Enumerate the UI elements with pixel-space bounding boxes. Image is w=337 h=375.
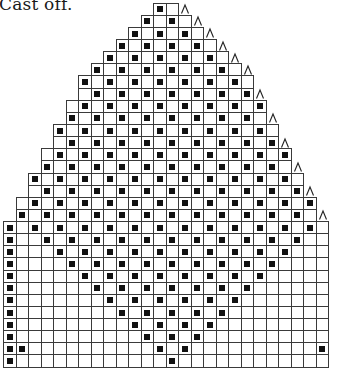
filled-square-icon xyxy=(82,200,88,206)
chart-cell xyxy=(128,354,142,367)
filled-square-icon xyxy=(219,188,225,194)
filled-square-icon xyxy=(269,261,275,267)
filled-square-icon xyxy=(119,91,125,97)
filled-square-icon xyxy=(232,103,238,109)
filled-square-icon xyxy=(7,358,13,364)
filled-square-icon xyxy=(194,310,200,316)
filled-square-icon xyxy=(169,261,175,267)
filled-square-icon xyxy=(69,115,75,121)
filled-square-icon xyxy=(94,164,100,170)
filled-square-icon xyxy=(107,225,113,231)
filled-square-icon xyxy=(119,140,125,146)
filled-square-icon xyxy=(44,237,50,243)
chart-cell xyxy=(141,354,155,367)
filled-square-icon xyxy=(119,212,125,218)
filled-square-icon xyxy=(294,188,300,194)
filled-square-icon xyxy=(194,188,200,194)
filled-square-icon xyxy=(7,310,13,316)
filled-square-icon xyxy=(169,212,175,218)
filled-square-icon xyxy=(119,237,125,243)
filled-square-icon xyxy=(119,188,125,194)
filled-square-icon xyxy=(257,176,263,182)
filled-square-icon xyxy=(94,115,100,121)
filled-square-icon xyxy=(94,67,100,73)
filled-square-icon xyxy=(182,225,188,231)
filled-square-icon xyxy=(232,128,238,134)
filled-square-icon xyxy=(19,212,25,218)
filled-square-icon xyxy=(169,358,175,364)
filled-square-icon xyxy=(232,176,238,182)
filled-square-icon xyxy=(44,212,50,218)
filled-square-icon xyxy=(132,297,138,303)
filled-square-icon xyxy=(282,225,288,231)
filled-square-icon xyxy=(119,67,125,73)
chart-cell xyxy=(291,354,305,367)
chart-cell-filled xyxy=(166,354,180,367)
filled-square-icon xyxy=(157,176,163,182)
decrease-caret-icon xyxy=(279,137,291,149)
chart-cell xyxy=(203,354,217,367)
filled-square-icon xyxy=(194,67,200,73)
decrease-caret-icon xyxy=(242,64,254,76)
filled-square-icon xyxy=(119,164,125,170)
filled-square-icon xyxy=(232,200,238,206)
decrease-caret-icon xyxy=(254,88,266,100)
filled-square-icon xyxy=(82,225,88,231)
filled-square-icon xyxy=(107,176,113,182)
filled-square-icon xyxy=(244,212,250,218)
chart-cell xyxy=(241,354,255,367)
filled-square-icon xyxy=(182,31,188,37)
filled-square-icon xyxy=(244,188,250,194)
filled-square-icon xyxy=(257,273,263,279)
filled-square-icon xyxy=(219,237,225,243)
filled-square-icon xyxy=(169,237,175,243)
filled-square-icon xyxy=(94,91,100,97)
filled-square-icon xyxy=(232,273,238,279)
filled-square-icon xyxy=(119,43,125,49)
filled-square-icon xyxy=(57,176,63,182)
filled-square-icon xyxy=(219,285,225,291)
filled-square-icon xyxy=(194,164,200,170)
filled-square-icon xyxy=(207,273,213,279)
chart-cell xyxy=(316,354,330,367)
filled-square-icon xyxy=(282,152,288,158)
filled-square-icon xyxy=(132,128,138,134)
filled-square-icon xyxy=(107,152,113,158)
filled-square-icon xyxy=(182,55,188,61)
filled-square-icon xyxy=(169,91,175,97)
filled-square-icon xyxy=(194,237,200,243)
filled-square-icon xyxy=(182,297,188,303)
filled-square-icon xyxy=(132,55,138,61)
filled-square-icon xyxy=(107,103,113,109)
filled-square-icon xyxy=(32,176,38,182)
filled-square-icon xyxy=(169,164,175,170)
filled-square-icon xyxy=(319,346,325,352)
decrease-caret-icon xyxy=(267,112,279,124)
filled-square-icon xyxy=(207,103,213,109)
filled-square-icon xyxy=(132,200,138,206)
filled-square-icon xyxy=(144,140,150,146)
filled-square-icon xyxy=(257,200,263,206)
filled-square-icon xyxy=(169,188,175,194)
filled-square-icon xyxy=(69,188,75,194)
filled-square-icon xyxy=(207,249,213,255)
filled-square-icon xyxy=(119,261,125,267)
filled-square-icon xyxy=(119,285,125,291)
filled-square-icon xyxy=(232,297,238,303)
filled-square-icon xyxy=(194,115,200,121)
filled-square-icon xyxy=(82,176,88,182)
filled-square-icon xyxy=(282,176,288,182)
decrease-caret-icon xyxy=(192,15,204,27)
filled-square-icon xyxy=(144,285,150,291)
filled-square-icon xyxy=(44,164,50,170)
filled-square-icon xyxy=(232,79,238,85)
filled-square-icon xyxy=(82,249,88,255)
decrease-caret-icon xyxy=(317,209,329,221)
filled-square-icon xyxy=(7,322,13,328)
filled-square-icon xyxy=(107,128,113,134)
filled-square-icon xyxy=(69,212,75,218)
filled-square-icon xyxy=(144,91,150,97)
filled-square-icon xyxy=(132,249,138,255)
filled-square-icon xyxy=(19,346,25,352)
filled-square-icon xyxy=(207,225,213,231)
